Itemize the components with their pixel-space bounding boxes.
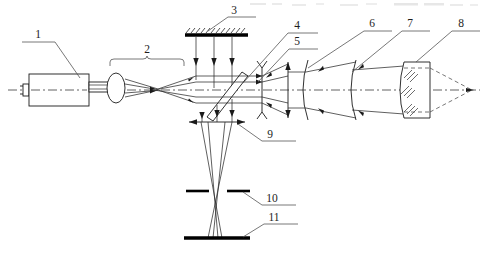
reticle-to-lens6-rays xyxy=(262,64,288,115)
label-10: 10 xyxy=(266,192,278,204)
label-leader-11 xyxy=(243,224,298,237)
label-5: 5 xyxy=(294,35,300,47)
optical-diagram-figure: 1 2 3 4 5 6 7 8 9 10 11 xyxy=(0,0,485,260)
label-1: 1 xyxy=(35,28,41,40)
label-4: 4 xyxy=(294,19,300,31)
reference-arm-rays xyxy=(193,37,234,96)
beam-expander-bracket xyxy=(110,56,184,66)
label-leader-8 xyxy=(416,31,480,62)
label-3: 3 xyxy=(231,4,237,16)
top-artifact-strip xyxy=(250,3,478,6)
laser-beam-rays xyxy=(125,76,196,103)
plano-convex-lens[interactable] xyxy=(400,62,430,118)
label-2: 2 xyxy=(144,43,150,55)
reference-mirror[interactable] xyxy=(185,28,248,35)
laser-collimator-lens xyxy=(107,73,125,103)
label-11: 11 xyxy=(268,211,279,223)
detection-arm-rays xyxy=(199,99,234,122)
label-8: 8 xyxy=(458,17,464,29)
laser-source[interactable] xyxy=(20,73,125,106)
beam-splitter[interactable] xyxy=(207,72,248,121)
label-leader-1 xyxy=(22,42,80,78)
optical-schematic-canvas: 1 2 3 4 5 6 7 8 9 10 11 xyxy=(0,0,485,260)
label-6: 6 xyxy=(369,17,375,29)
label-7: 7 xyxy=(407,17,413,29)
lens6-to-lens7-rays xyxy=(306,62,356,118)
label-leader-3 xyxy=(208,17,256,31)
label-9: 9 xyxy=(267,128,273,140)
lens9-to-detector-rays xyxy=(201,122,232,238)
